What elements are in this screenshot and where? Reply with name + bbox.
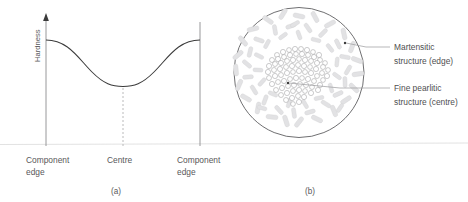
panel-a-caption: (a) bbox=[111, 187, 121, 196]
x-tick-label-left-line1: Component bbox=[26, 155, 70, 165]
callout-anchor-dot-pearlitic bbox=[287, 82, 289, 84]
figure-svg: Hardness Component edge Centre Component… bbox=[0, 0, 468, 202]
y-axis-label: Hardness bbox=[33, 29, 42, 62]
panel-b-caption: (b) bbox=[305, 187, 315, 196]
callout-anchor-dot-martensitic bbox=[344, 42, 346, 44]
hardness-curve bbox=[46, 40, 200, 87]
x-tick-label-centre: Centre bbox=[107, 155, 132, 165]
callout-martensitic-line2: structure (edge) bbox=[394, 56, 453, 66]
x-tick-label-right-line1: Component bbox=[177, 155, 221, 165]
x-tick-label-right-line2: edge bbox=[177, 167, 196, 177]
panel-a-chart: Hardness Component edge Centre Component… bbox=[26, 13, 221, 196]
page-rule-line bbox=[0, 143, 468, 145]
figure-root: Hardness Component edge Centre Component… bbox=[0, 0, 468, 202]
x-tick-label-left-line2: edge bbox=[26, 167, 45, 177]
panel-b-microstructure: Martensitic structure (edge) Fine pearli… bbox=[232, 8, 458, 197]
callout-pearlitic-line2: structure (centre) bbox=[394, 97, 458, 107]
callout-martensitic-line1: Martensitic bbox=[394, 42, 435, 52]
y-axis-arrow-icon bbox=[43, 13, 49, 21]
callout-pearlitic-line1: Fine pearlitic bbox=[394, 83, 441, 93]
